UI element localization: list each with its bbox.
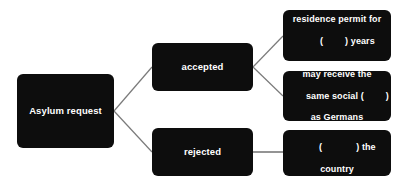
node-leave-country[interactable]: () the country (283, 130, 391, 176)
node-leave-country-line-2: country (298, 164, 375, 175)
node-rejected[interactable]: rejected (152, 128, 253, 176)
node-accepted-text: accepted (178, 61, 228, 72)
node-leave-country-line-1: () the (298, 132, 375, 164)
node-residence-permit-line-1: residence permit for (293, 14, 382, 25)
asylum-request-flowchart: Asylum request accepted rejected residen… (0, 0, 396, 191)
node-social-benefits[interactable]: may receive the same social () as German… (283, 71, 391, 121)
node-accepted-line-1: accepted (182, 61, 224, 72)
edge-accepted-social (253, 67, 283, 96)
node-asylum-request[interactable]: Asylum request (17, 74, 114, 148)
edge-asylum-accepted (114, 67, 152, 111)
node-social-benefits-line-2: same social () (285, 80, 389, 112)
node-social-benefits-line-3: as Germans (285, 112, 389, 123)
edge-asylum-rejected (114, 111, 152, 152)
node-asylum-request-text: Asylum request (25, 105, 106, 116)
edge-accepted-permit (253, 36, 283, 67)
node-social-benefits-line-1: may receive the (285, 69, 389, 80)
permit-paren-close: ) years (345, 36, 375, 46)
node-residence-permit-text: residence permit for () years (289, 14, 386, 56)
permit-paren-open: ( (320, 36, 323, 46)
node-rejected-line-1: rejected (184, 146, 221, 157)
node-rejected-text: rejected (180, 146, 225, 157)
country-paren-open: ( (319, 142, 322, 152)
node-accepted[interactable]: accepted (152, 43, 253, 91)
node-social-benefits-text: may receive the same social () as German… (281, 69, 393, 122)
node-residence-permit[interactable]: residence permit for () years (283, 10, 391, 61)
social-paren-open: same social ( (306, 91, 364, 101)
country-paren-close: ) the (356, 142, 376, 152)
social-paren-close: ) (386, 91, 389, 101)
node-residence-permit-line-2: () years (293, 25, 382, 57)
node-asylum-request-line-1: Asylum request (29, 105, 102, 116)
node-leave-country-text: () the country (294, 132, 379, 174)
